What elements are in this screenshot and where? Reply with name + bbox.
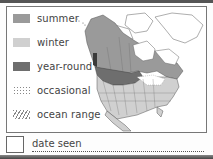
range-map-panel: summer winter year-round occasional ocea… xyxy=(6,6,207,133)
legend-item-occasional: occasional xyxy=(13,85,91,95)
legend-label: summer xyxy=(37,13,79,24)
hatched-swatch-icon xyxy=(13,110,30,119)
legend-label: occasional xyxy=(37,85,91,96)
year-round-swatch-icon xyxy=(13,62,30,71)
legend-item-year-round: year-round xyxy=(13,61,92,71)
legend-item-ocean-range: ocean range xyxy=(13,109,101,119)
top-border xyxy=(0,0,213,3)
legend-label: year-round xyxy=(37,61,92,72)
legend-item-winter: winter xyxy=(13,37,69,47)
legend-label: winter xyxy=(37,37,69,48)
summer-swatch-icon xyxy=(13,14,30,23)
dotted-swatch-icon xyxy=(13,86,30,95)
date-seen-input-line[interactable] xyxy=(32,151,204,152)
date-seen-label: date seen xyxy=(32,138,82,149)
bottom-border xyxy=(0,155,213,159)
legend-label: ocean range xyxy=(37,109,101,120)
date-seen-checkbox[interactable] xyxy=(6,136,24,153)
legend-item-summer: summer xyxy=(13,13,79,23)
winter-swatch-icon xyxy=(13,38,30,47)
